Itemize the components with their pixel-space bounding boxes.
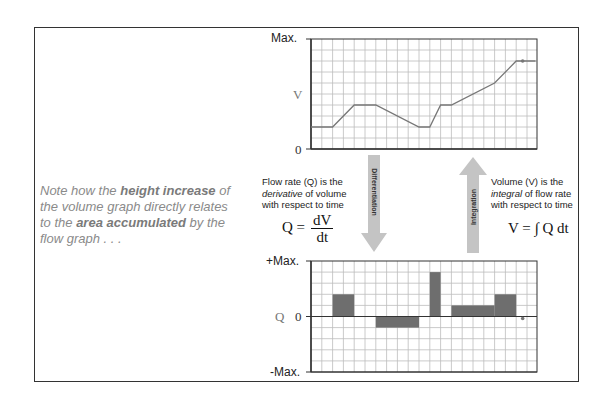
flow-axis-label: Q bbox=[275, 309, 284, 325]
differentiation-description: Flow rate (Q) is the derivative of volum… bbox=[262, 176, 347, 211]
volume-max-label: Max. bbox=[271, 31, 297, 45]
flow-max-label: +Max. bbox=[266, 254, 299, 268]
volume-current-marker bbox=[521, 59, 525, 63]
volume-zero-label: 0 bbox=[295, 142, 302, 158]
integration-description: Volume (V) is the integral of flow rate … bbox=[491, 176, 573, 211]
flow-bar bbox=[495, 294, 517, 316]
derivative-formula: Q =dVdt bbox=[282, 212, 333, 245]
flow-bar bbox=[333, 294, 355, 316]
volume-axis-label: V bbox=[293, 87, 302, 103]
flow-current-marker bbox=[521, 317, 525, 321]
flow-bar bbox=[376, 317, 419, 328]
integration-arrow-label: Integration bbox=[470, 189, 477, 225]
flow-min-label: -Max. bbox=[270, 365, 300, 379]
flow-zero-label: 0 bbox=[295, 309, 302, 325]
differentiation-arrow-label: Differentiation bbox=[371, 168, 378, 215]
flow-bar bbox=[451, 305, 494, 316]
integral-formula: V = ∫ Q dt bbox=[508, 220, 569, 237]
flow-bar bbox=[430, 272, 441, 316]
